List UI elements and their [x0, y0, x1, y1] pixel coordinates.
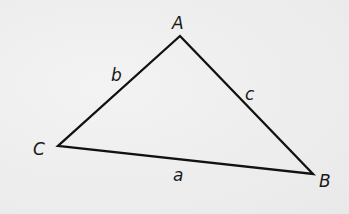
triangle-svg: A B C a b c	[0, 0, 349, 214]
side-label-a: a	[173, 165, 183, 185]
vertex-label-b: B	[319, 171, 331, 191]
triangle-abc	[58, 36, 313, 174]
vertex-label-c: C	[33, 139, 45, 159]
triangle-diagram: A B C a b c	[0, 0, 349, 214]
side-label-c: c	[245, 84, 255, 104]
side-label-b: b	[111, 65, 122, 85]
vertex-label-a: A	[171, 13, 184, 33]
